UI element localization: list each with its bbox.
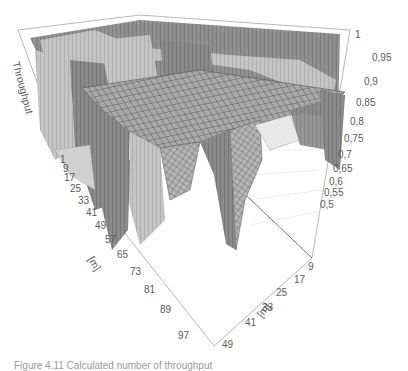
z-tick: 1	[355, 30, 361, 40]
x-tick: 97	[178, 331, 189, 341]
z-tick: 0,6	[329, 177, 343, 187]
x-tick: 57	[105, 235, 116, 245]
x-tick: 17	[64, 173, 75, 183]
z-tick: 0,7	[338, 150, 352, 160]
y-tick: 25	[276, 288, 287, 298]
z-tick: 0,75	[344, 134, 363, 144]
z-tick: 0,5	[320, 200, 334, 210]
y-tick: 49	[222, 340, 233, 350]
x-tick: 33	[78, 196, 89, 206]
z-tick: 0,8	[350, 117, 364, 127]
x-tick: 25	[70, 184, 81, 194]
y-tick: 17	[294, 275, 305, 285]
x-tick: 41	[86, 208, 97, 218]
x-tick: 89	[160, 305, 171, 315]
z-tick: 0,95	[372, 53, 391, 63]
z-tick: 0,65	[333, 164, 352, 174]
x-tick: 65	[117, 250, 128, 260]
z-tick: 0,55	[324, 188, 343, 198]
x-tick: 81	[144, 285, 155, 295]
y-tick: 9	[308, 262, 314, 272]
z-tick: 0,85	[356, 98, 375, 108]
x-tick: 73	[130, 267, 141, 277]
x-tick: 49	[95, 221, 106, 231]
y-tick: 41	[245, 318, 256, 328]
z-tick: 0,9	[364, 77, 378, 87]
figure-caption: Figure 4.11 Calculated number of through…	[14, 360, 212, 371]
